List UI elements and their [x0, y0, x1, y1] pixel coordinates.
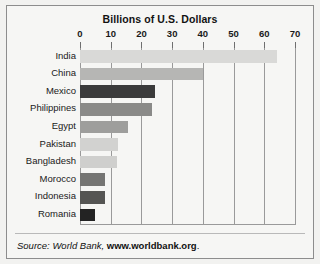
bar-row: Romania: [80, 206, 295, 224]
bar: [80, 156, 117, 169]
source-divider: [15, 233, 305, 234]
x-tick-label: 50: [228, 28, 239, 39]
gridline-70: [295, 48, 296, 224]
x-axis-baseline: [80, 224, 296, 225]
bar-row: Philippines: [80, 101, 295, 119]
x-tick-label: 70: [290, 28, 301, 39]
chart-title: Billions of U.S. Dollars: [0, 13, 320, 25]
source-url[interactable]: www.worldbank.org: [107, 240, 197, 251]
x-tick-label: 40: [198, 28, 209, 39]
bar-row: Egypt: [80, 118, 295, 136]
plot-area: IndiaChinaMexicoPhilippinesEgyptPakistan…: [80, 48, 295, 224]
bar-row: China: [80, 66, 295, 84]
bar: [80, 121, 128, 134]
x-tick-label: 10: [105, 28, 116, 39]
bar-row: India: [80, 48, 295, 66]
x-tick-label: 60: [259, 28, 270, 39]
bar: [80, 173, 105, 186]
bar-row: Bangladesh: [80, 154, 295, 172]
bar-row: Pakistan: [80, 136, 295, 154]
category-label: Bangladesh: [26, 155, 76, 166]
bar: [80, 68, 203, 81]
bar: [80, 103, 152, 116]
category-label: India: [55, 50, 76, 61]
category-label: Indonesia: [35, 190, 76, 201]
source-trailing: .: [197, 240, 200, 251]
category-label: Romania: [38, 208, 76, 219]
category-label: Philippines: [30, 102, 76, 113]
bar-row: Morocco: [80, 171, 295, 189]
bar-row: Mexico: [80, 83, 295, 101]
source-note: Source: World Bank, www.worldbank.org.: [17, 240, 199, 251]
bar: [80, 209, 95, 222]
chart-figure: Billions of U.S. Dollars 010203040506070…: [0, 0, 320, 264]
x-tick-label: 30: [167, 28, 178, 39]
category-label: Egypt: [52, 120, 76, 131]
category-label: Mexico: [46, 85, 76, 96]
source-lead: Source: World Bank,: [17, 240, 107, 251]
category-label: China: [51, 67, 76, 78]
category-label: Pakistan: [40, 138, 76, 149]
category-label: Morocco: [40, 173, 76, 184]
bar: [80, 138, 118, 151]
bar-row: Indonesia: [80, 189, 295, 207]
bar: [80, 191, 105, 204]
bar: [80, 50, 277, 63]
x-tick-label: 20: [136, 28, 147, 39]
bar: [80, 85, 155, 98]
x-tick-label: 0: [77, 28, 82, 39]
